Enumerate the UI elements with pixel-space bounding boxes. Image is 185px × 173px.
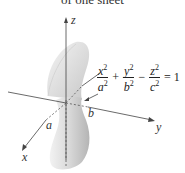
semi-axis-b-label: b xyxy=(88,106,94,121)
semi-axis-a-label: a xyxy=(46,118,52,133)
z-axis-arrow xyxy=(64,17,68,23)
y-axis-label: y xyxy=(156,120,161,135)
x-axis xyxy=(24,120,46,148)
term-y: y2 b2 xyxy=(123,62,134,93)
y-axis xyxy=(88,107,152,120)
y-axis-arrow xyxy=(148,117,155,122)
term-x: x2 a2 xyxy=(97,62,108,93)
term-z: z2 c2 xyxy=(149,62,160,93)
hyperboloid-surface xyxy=(47,42,89,170)
x-axis-label: x xyxy=(22,150,27,165)
hyperboloid-equation: x2 a2 + y2 b2 − z2 c2 = 1 xyxy=(96,62,183,93)
equation-rhs: = 1 xyxy=(164,70,180,85)
z-axis-label: z xyxy=(71,13,76,28)
